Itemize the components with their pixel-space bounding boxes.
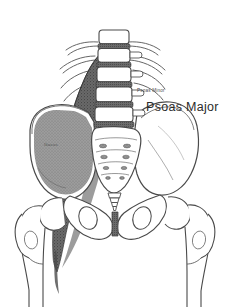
anatomy-illustration: [0, 0, 236, 307]
anatomy-figure: Psoas Minor Psoas Major Iliacus: [0, 0, 236, 307]
iliacus-label: Iliacus: [44, 142, 58, 147]
psoas-minor-label: Psoas Minor: [137, 88, 165, 93]
psoas-major-label: Psoas Major: [146, 100, 219, 114]
pubic-symphysis: [112, 212, 118, 236]
